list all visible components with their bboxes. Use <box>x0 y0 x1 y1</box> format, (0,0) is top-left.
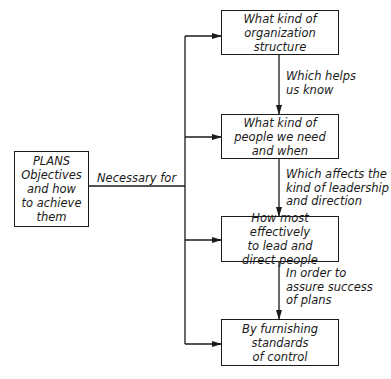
label-line: us know <box>286 84 356 98</box>
people-needed-box: What kind of people we need and when <box>221 114 339 159</box>
box-line: What kind of <box>243 12 316 26</box>
which-affects-label: Which affects the kind of leadership and… <box>286 168 389 209</box>
box-line: and when <box>234 144 326 158</box>
box-line: By furnishing <box>242 322 318 336</box>
box-line: organization <box>243 26 316 40</box>
plans-box-line: Objectives <box>21 168 82 182</box>
lead-direct-people-box: How most effectively to lead and direct … <box>221 216 339 262</box>
in-order-to-label: In order to assure success of plans <box>286 267 373 308</box>
label-line: assure success <box>286 281 373 295</box>
label-line: Which affects the <box>286 168 389 182</box>
standards-of-control-box: By furnishing standards of control <box>221 319 339 366</box>
plans-box-line: PLANS <box>21 154 82 168</box>
label-line: In order to <box>286 267 373 281</box>
box-line: direct people <box>222 253 338 267</box>
label-line: of plans <box>286 294 373 308</box>
box-line: How most effectively <box>222 211 338 239</box>
box-line: to lead and <box>222 239 338 253</box>
plans-box: PLANS Objectives and how to achieve them <box>14 151 89 227</box>
box-line: people we need <box>234 130 326 144</box>
plans-box-line: to achieve <box>21 196 82 210</box>
label-line: kind of leadership <box>286 182 389 196</box>
box-line: What kind of <box>234 116 326 130</box>
which-helps-label: Which helps us know <box>286 70 356 97</box>
organization-structure-box: What kind of organization structure <box>221 10 339 55</box>
box-line: of control <box>242 350 318 364</box>
label-line: Which helps <box>286 70 356 84</box>
box-line: structure <box>243 40 316 54</box>
plans-box-line: them <box>21 210 82 224</box>
label-line: and direction <box>286 195 389 209</box>
box-line: standards <box>242 336 318 350</box>
necessary-for-label: Necessary for <box>97 172 176 186</box>
plans-box-line: and how <box>21 182 82 196</box>
